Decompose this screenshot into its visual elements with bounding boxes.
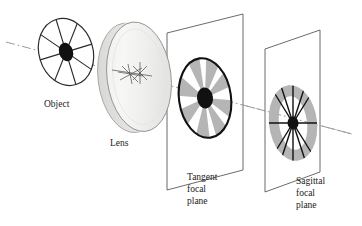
sagittal-blur-patch xyxy=(262,75,326,175)
label-sagittal-line2: focal xyxy=(296,188,315,198)
label-sagittal-line1: Sagittal xyxy=(296,176,325,186)
label-lens: Lens xyxy=(110,138,129,148)
label-sagittal-line3: plane xyxy=(296,200,317,210)
label-tangent-line3: plane xyxy=(187,196,208,206)
optics-figure: Object Lens Tangent focal plane Sagittal… xyxy=(0,0,362,226)
label-tangent-line2: focal xyxy=(187,184,206,194)
label-object: Object xyxy=(44,99,70,109)
label-tangent-line1: Tangent xyxy=(187,172,218,182)
